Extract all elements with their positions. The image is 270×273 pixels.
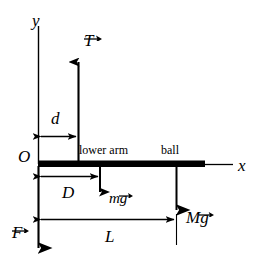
y-axis-label: y: [32, 12, 40, 29]
lower-arm-bar: [38, 161, 205, 168]
joint-force-vector-label: F: [12, 224, 22, 242]
free-body-diagram: y x O lower arm ball d D L T mg Mg: [0, 0, 270, 273]
joint-force-glyph: F: [12, 224, 22, 241]
x-axis-label: x: [238, 157, 246, 174]
vector-arrow-accent-icon: [119, 186, 131, 193]
tension-vector-label: T: [84, 32, 93, 50]
ball-weight-g-wrap: g: [200, 209, 209, 226]
ball-label: ball: [161, 144, 179, 156]
origin-label: O: [18, 148, 30, 165]
dimension-d-label: d: [51, 110, 60, 127]
ball-weight-vector-label: Mg: [186, 209, 209, 226]
tension-glyph: T: [84, 32, 93, 49]
dimension-D-label: D: [62, 184, 74, 201]
lower-arm-label: lower arm: [79, 144, 128, 156]
ball-weight-mass-glyph: M: [186, 208, 200, 227]
vector-arrow-accent-icon: [199, 203, 212, 210]
arm-weight-g-wrap: g: [120, 191, 128, 206]
arm-weight-vector-label: mg: [109, 191, 127, 206]
dimension-L-label: L: [105, 228, 114, 245]
diagram-canvas: [0, 0, 270, 273]
